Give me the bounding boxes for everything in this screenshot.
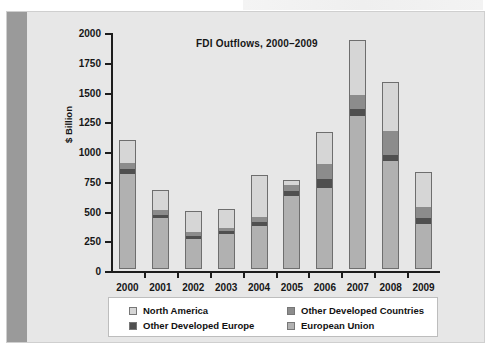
y-tick — [105, 182, 112, 184]
x-tick — [308, 271, 310, 278]
bar-2005[interactable] — [283, 180, 300, 269]
bar-2008[interactable] — [382, 82, 399, 269]
y-tick — [105, 33, 112, 35]
bar-segment — [252, 226, 267, 268]
y-tick-label: 250 — [84, 236, 101, 247]
x-tick — [144, 271, 146, 278]
bar-segment — [219, 210, 234, 228]
bar-segment — [317, 188, 332, 268]
bar-segment — [350, 41, 365, 95]
legend-swatch-north-america — [129, 307, 137, 315]
bar-segment — [383, 83, 398, 131]
legend-label-north-america: North America — [143, 305, 208, 316]
x-tick — [210, 271, 212, 278]
bar-segment — [317, 164, 332, 180]
bar-segment — [416, 173, 431, 207]
bar-segment — [416, 207, 431, 219]
x-tick — [407, 271, 409, 278]
legend-item-other-developed-countries[interactable]: Other Developed Countries — [287, 305, 424, 316]
legend-item-other-developed-europe[interactable]: Other Developed Europe — [129, 320, 254, 331]
x-tick-label: 2002 — [182, 282, 204, 293]
x-tick-label: 2005 — [281, 282, 303, 293]
y-tick-label: 0 — [95, 266, 101, 277]
bar-segment — [284, 196, 299, 268]
bar-segment — [383, 161, 398, 268]
bar-segment — [317, 133, 332, 164]
legend-label-european-union: European Union — [301, 320, 374, 331]
plot-area: 025050075010001250150017502000 200020012… — [111, 33, 440, 271]
bar-segment — [350, 95, 365, 110]
x-tick — [341, 271, 343, 278]
bar-2007[interactable] — [349, 40, 366, 269]
bar-segment — [120, 141, 135, 163]
x-tick-label: 2009 — [412, 282, 434, 293]
legend-label-other-developed-countries: Other Developed Countries — [301, 305, 424, 316]
bar-segment — [350, 116, 365, 268]
x-tick-label: 2000 — [116, 282, 138, 293]
x-tick — [177, 271, 179, 278]
bar-segment — [153, 218, 168, 268]
chart-legend: North America Other Developed Europe Oth… — [108, 297, 438, 337]
bar-segment — [186, 239, 201, 268]
x-tick-label: 2007 — [347, 282, 369, 293]
bar-segment — [153, 191, 168, 210]
y-tick-label: 2000 — [79, 28, 101, 39]
legend-item-north-america[interactable]: North America — [129, 305, 208, 316]
y-tick — [105, 271, 112, 273]
legend-item-european-union[interactable]: European Union — [287, 320, 374, 331]
legend-swatch-other-developed-europe — [129, 322, 137, 330]
y-axis-title: $ Billion — [63, 106, 74, 143]
bar-segment — [186, 212, 201, 232]
bar-segment — [252, 176, 267, 217]
y-tick-label: 1000 — [79, 147, 101, 158]
y-tick — [105, 241, 112, 243]
x-tick-label: 2001 — [149, 282, 171, 293]
y-tick-label: 1500 — [79, 87, 101, 98]
y-tick-label: 500 — [84, 206, 101, 217]
legend-swatch-european-union — [287, 322, 295, 330]
y-tick — [105, 212, 112, 214]
y-tick-label: 750 — [84, 176, 101, 187]
bar-segment — [120, 174, 135, 268]
y-tick — [105, 93, 112, 95]
y-tick-label: 1750 — [79, 57, 101, 68]
bar-2009[interactable] — [415, 172, 432, 269]
x-tick — [276, 271, 278, 278]
bar-2002[interactable] — [185, 211, 202, 269]
y-tick — [105, 63, 112, 65]
bar-2004[interactable] — [251, 175, 268, 269]
x-tick — [243, 271, 245, 278]
bar-2001[interactable] — [152, 190, 169, 269]
legend-label-other-developed-europe: Other Developed Europe — [143, 320, 254, 331]
bar-segment — [350, 109, 365, 116]
figure-container: FDI Outflows, 2000–2009 $ Billion 025050… — [0, 0, 491, 351]
bar-2000[interactable] — [119, 140, 136, 269]
bar-segment — [317, 179, 332, 188]
page-header-ghost — [243, 0, 483, 10]
x-tick — [374, 271, 376, 278]
y-tick — [105, 152, 112, 154]
legend-swatch-other-developed-countries — [287, 307, 295, 315]
y-tick — [105, 122, 112, 124]
bar-segment — [416, 224, 431, 268]
y-tick-label: 1250 — [79, 117, 101, 128]
x-tick-label: 2006 — [314, 282, 336, 293]
bar-2003[interactable] — [218, 209, 235, 269]
x-tick-label: 2008 — [380, 282, 402, 293]
left-gutter-bar — [7, 12, 27, 342]
x-tick-label: 2003 — [215, 282, 237, 293]
bar-2006[interactable] — [316, 132, 333, 269]
bar-segment — [219, 234, 234, 268]
bar-segment — [383, 131, 398, 155]
x-tick-label: 2004 — [248, 282, 270, 293]
